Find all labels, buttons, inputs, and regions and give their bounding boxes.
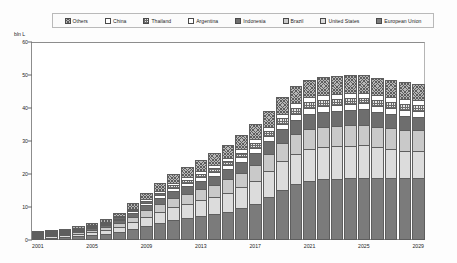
y-axis-tick-label: 10 <box>0 204 31 210</box>
bar-segment <box>344 75 357 93</box>
bar-segment <box>371 127 384 148</box>
bar-column[interactable] <box>58 42 72 240</box>
bar-column[interactable] <box>249 42 263 240</box>
bar-column[interactable] <box>208 42 222 240</box>
bar-stack <box>399 82 412 240</box>
bar-segment <box>358 125 371 146</box>
bar-segment <box>167 198 180 207</box>
bar-segment <box>303 114 316 129</box>
y-axis-unit-label: bln L <box>14 31 25 37</box>
bar-segment <box>263 197 276 240</box>
bar-column[interactable] <box>153 42 167 240</box>
bar-stack <box>100 219 113 240</box>
legend-item[interactable]: China <box>105 18 126 24</box>
legend-item[interactable]: Thailand <box>143 18 171 24</box>
bar-segment <box>344 178 357 240</box>
bar-column[interactable] <box>72 42 86 240</box>
y-axis-tick-mark <box>28 207 32 208</box>
bar-segment <box>412 151 425 177</box>
bar-segment <box>263 111 276 127</box>
bar-stack <box>140 193 153 240</box>
bar-column[interactable] <box>276 42 290 240</box>
bar-column[interactable] <box>357 42 371 240</box>
y-axis-tick-mark <box>28 240 32 241</box>
bar-segment <box>385 114 398 129</box>
bar-column[interactable] <box>289 42 303 240</box>
bar-column[interactable] <box>371 42 385 240</box>
bar-segment <box>385 80 398 97</box>
bar-column[interactable] <box>194 42 208 240</box>
bar-segment <box>113 232 126 240</box>
legend-item[interactable]: European Union <box>376 18 421 24</box>
legend-item-label: Argentina <box>196 18 218 24</box>
bar-segment <box>276 97 289 114</box>
bar-segment <box>140 217 153 226</box>
legend-swatch-icon <box>283 18 289 24</box>
bar-column[interactable] <box>167 42 181 240</box>
bar-segment <box>127 222 140 229</box>
bar-segment <box>181 204 194 219</box>
bar-stack <box>45 230 58 240</box>
legend-swatch-icon <box>235 18 241 24</box>
bar-column[interactable] <box>303 42 317 240</box>
bar-segment <box>317 179 330 240</box>
y-axis-tick-label: 50 <box>0 72 31 78</box>
legend-item[interactable]: United States <box>320 18 359 24</box>
bar-column[interactable] <box>31 42 45 240</box>
bar-stack <box>154 183 167 240</box>
bar-segment <box>317 112 330 127</box>
bar-segment <box>331 179 344 240</box>
bar-stack <box>385 80 398 240</box>
bar-segment <box>235 173 248 188</box>
bar-segment <box>195 216 208 240</box>
bar-segment <box>208 176 221 185</box>
legend-item[interactable]: Argentina <box>188 18 218 24</box>
y-axis-tick-label: 60 <box>0 39 31 45</box>
bar-column[interactable] <box>398 42 412 240</box>
bar-column[interactable] <box>384 42 398 240</box>
bar-column[interactable] <box>113 42 127 240</box>
bar-column[interactable] <box>221 42 235 240</box>
bar-column[interactable] <box>85 42 99 240</box>
bar-stack <box>331 76 344 240</box>
bar-segment <box>303 129 316 149</box>
bar-column[interactable] <box>262 42 276 240</box>
bar-column[interactable] <box>235 42 249 240</box>
bar-segment <box>235 208 248 240</box>
bar-column[interactable] <box>344 42 358 240</box>
bar-stack <box>59 229 72 240</box>
bar-stack <box>208 153 221 240</box>
bar-segment <box>317 147 330 179</box>
legend-item[interactable]: Others <box>65 18 88 24</box>
bar-segment <box>276 161 289 189</box>
bar-column[interactable] <box>45 42 59 240</box>
legend-item[interactable]: Brazil <box>283 18 304 24</box>
legend-item[interactable]: Indonesia <box>235 18 265 24</box>
bar-stack <box>167 174 180 240</box>
y-axis-tick-mark <box>28 75 32 76</box>
bar-segment <box>412 117 425 131</box>
legend-swatch-icon <box>376 18 382 24</box>
chart-legend: OthersChinaThailandArgentinaIndonesiaBra… <box>52 13 434 28</box>
legend-swatch-icon <box>143 18 149 24</box>
bar-segment <box>385 149 398 177</box>
bar-column[interactable] <box>330 42 344 240</box>
chart-figure: OthersChinaThailandArgentinaIndonesiaBra… <box>0 0 457 263</box>
bar-column[interactable] <box>412 42 426 240</box>
bar-segment <box>140 193 153 200</box>
bar-column[interactable] <box>99 42 113 240</box>
legend-item-label: Brazil <box>291 18 304 24</box>
bar-segment <box>317 77 330 95</box>
bar-segment <box>344 125 357 146</box>
bar-segment <box>276 190 289 240</box>
y-axis-tick-label: 40 <box>0 105 31 111</box>
legend-swatch-icon <box>188 18 194 24</box>
bar-segment <box>249 204 262 240</box>
bar-column[interactable] <box>316 42 330 240</box>
bar-column[interactable] <box>181 42 195 240</box>
bar-column[interactable] <box>126 42 140 240</box>
bar-segment <box>399 151 412 178</box>
bar-segment <box>371 112 384 127</box>
bar-segment <box>181 167 194 177</box>
bar-column[interactable] <box>140 42 154 240</box>
